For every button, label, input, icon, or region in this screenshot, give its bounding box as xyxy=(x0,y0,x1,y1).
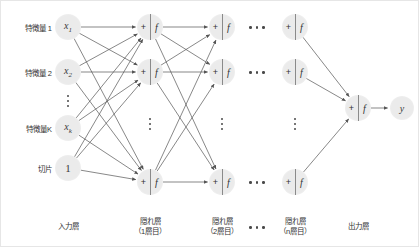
activation-symbol: f xyxy=(295,14,308,40)
activation-symbol: f xyxy=(222,14,235,40)
input-row-label-3: 特徴量K xyxy=(26,123,52,134)
sum-symbol: + xyxy=(137,169,150,195)
input-row-label-2: 特徴量 2 xyxy=(25,67,52,78)
hidden-vertical-ellipsis-2 xyxy=(221,118,223,130)
column-label-5: 出力層 xyxy=(318,222,398,232)
column-label-line2: （1層目） xyxy=(110,227,190,237)
hidden-unit-3-1[interactable]: +f xyxy=(282,14,308,40)
column-label-line1: 隠れ層 xyxy=(110,217,190,227)
layers-horizontal-ellipsis-1 xyxy=(249,26,265,29)
sum-symbol: + xyxy=(345,95,358,121)
hidden-unit-3-2[interactable]: +f xyxy=(282,59,308,85)
activation-symbol: f xyxy=(222,169,235,195)
hidden-vertical-ellipsis-3 xyxy=(294,118,296,130)
hidden-unit-2-1[interactable]: +f xyxy=(209,14,235,40)
sum-symbol: + xyxy=(209,59,222,85)
hidden-unit-1-3[interactable]: +f xyxy=(137,169,163,195)
column-label-line2: （2層目） xyxy=(182,227,262,237)
sum-symbol: + xyxy=(209,169,222,195)
hidden-vertical-ellipsis-1 xyxy=(149,118,151,130)
input-node-4[interactable]: 1 xyxy=(55,155,81,181)
activation-symbol: f xyxy=(358,95,371,121)
input-node-2[interactable]: x2 xyxy=(55,59,81,85)
hidden-unit-2-2[interactable]: +f xyxy=(209,59,235,85)
hidden-unit-1-1[interactable]: +f xyxy=(137,14,163,40)
layers-horizontal-ellipsis-2 xyxy=(249,71,265,74)
input-row-label-1: 特徴量 1 xyxy=(25,22,52,33)
output-node-label: y xyxy=(400,103,404,114)
input-node-3[interactable]: xk xyxy=(55,115,81,141)
column-label-1: 入力層 xyxy=(28,222,108,232)
activation-symbol: f xyxy=(150,14,163,40)
sum-symbol: + xyxy=(282,14,295,40)
sum-symbol: + xyxy=(137,14,150,40)
column-label-2: 隠れ層（1層目） xyxy=(110,217,190,237)
activation-symbol: f xyxy=(222,59,235,85)
input-row-label-4: 切片 xyxy=(38,163,52,174)
hidden-unit-3-3[interactable]: +f xyxy=(282,169,308,195)
sum-symbol: + xyxy=(282,59,295,85)
column-label-line1: 入力層 xyxy=(28,222,108,232)
activation-symbol: f xyxy=(150,169,163,195)
hidden-unit-2-3[interactable]: +f xyxy=(209,169,235,195)
input-node-label: xk xyxy=(64,121,72,135)
input-vertical-ellipsis xyxy=(67,95,69,107)
input-node-label: x2 xyxy=(64,65,72,79)
activation-symbol: f xyxy=(295,59,308,85)
input-node-label: x1 xyxy=(64,20,72,34)
activation-symbol: f xyxy=(150,59,163,85)
activation-symbol: f xyxy=(295,169,308,195)
bottom-horizontal-ellipsis xyxy=(249,226,265,229)
sum-symbol: + xyxy=(137,59,150,85)
input-node-label: 1 xyxy=(65,162,71,174)
hidden-unit-1-2[interactable]: +f xyxy=(137,59,163,85)
column-label-line1: 出力層 xyxy=(318,222,398,232)
sum-symbol: + xyxy=(282,169,295,195)
input-node-1[interactable]: x1 xyxy=(55,14,81,40)
output-unit[interactable]: +f xyxy=(345,95,371,121)
layers-horizontal-ellipsis-3 xyxy=(249,181,265,184)
sum-symbol: + xyxy=(209,14,222,40)
output-node[interactable]: y xyxy=(390,96,414,120)
